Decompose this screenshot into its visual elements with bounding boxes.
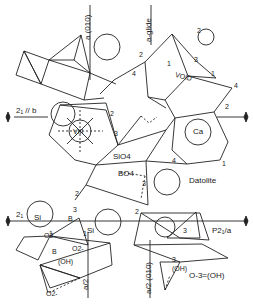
a2-label: a/2 (82, 279, 90, 290)
vertex-number: 1 (222, 160, 226, 167)
vertex-number: 1 (167, 60, 171, 67)
tetrahedron (167, 212, 200, 238)
vertex-number: 2 (75, 190, 79, 197)
si-label: Si (34, 214, 41, 222)
vertex-number: 2 (135, 208, 139, 215)
vertex-number: 1 (49, 230, 53, 237)
screw-marker-icon (244, 112, 248, 122)
vertex-number: 2 (197, 27, 201, 34)
screw-marker-icon (6, 112, 10, 122)
ca-label: Ca (193, 128, 203, 136)
viii-label: VIII (73, 128, 84, 135)
vertex-number: 4 (172, 157, 176, 164)
screw-marker-icon (6, 216, 10, 226)
b-label: B (68, 215, 73, 222)
o3-oh-label: O-3=(OH) (189, 272, 224, 280)
cation-site-circle (94, 34, 120, 60)
vertex-number: 4 (132, 70, 136, 77)
vertex-number: 3 (114, 130, 118, 137)
space-group-label: P2₁/a (212, 227, 231, 235)
hydroxyl-label: (OH) (58, 258, 73, 265)
screw-axis-label: 2₁ (16, 211, 23, 219)
vertex-number: 3 (194, 56, 198, 63)
oxide-label: O2- (72, 245, 84, 252)
b-label: B (52, 248, 57, 255)
si-label: Si (87, 227, 94, 235)
datolite-label: Datolite (189, 177, 216, 185)
vertex-number: 2 (139, 51, 143, 58)
a2-010-label: a/2 (010) (145, 262, 153, 294)
vertex-number: 4 (234, 82, 238, 89)
vertex-number: 3 (73, 206, 77, 213)
screw-marker-icon (244, 216, 248, 226)
vertex-number: 3 (142, 180, 146, 187)
cation-site-circle (154, 169, 180, 195)
vertex-number: 1 (83, 230, 87, 237)
tetrahedron (49, 35, 90, 73)
a-010-label: a (010) (84, 15, 92, 40)
sio4-label: SiO4 (113, 153, 131, 161)
bo4-label: BO4 (118, 170, 134, 178)
vertex-number: 2 (110, 110, 114, 117)
a-glide-label: a-glide (145, 18, 153, 42)
screw-axis-b-label: 2₁ // b (16, 107, 37, 115)
vertex-number: 3 (172, 256, 176, 263)
datolite-structure-diagram: a (010) a-glide 2₁ // b 2₁ VOID Ca VIII … (0, 0, 253, 305)
vertex-number: 1 (211, 70, 215, 77)
hydroxyl-label: (OH) (172, 265, 187, 272)
ca-polyhedron (172, 112, 228, 164)
cation-site-circle (95, 209, 121, 235)
vertex-number: 2 (225, 103, 229, 110)
oxide-label: O2- (46, 290, 58, 297)
vertex-number: 3 (183, 227, 187, 234)
